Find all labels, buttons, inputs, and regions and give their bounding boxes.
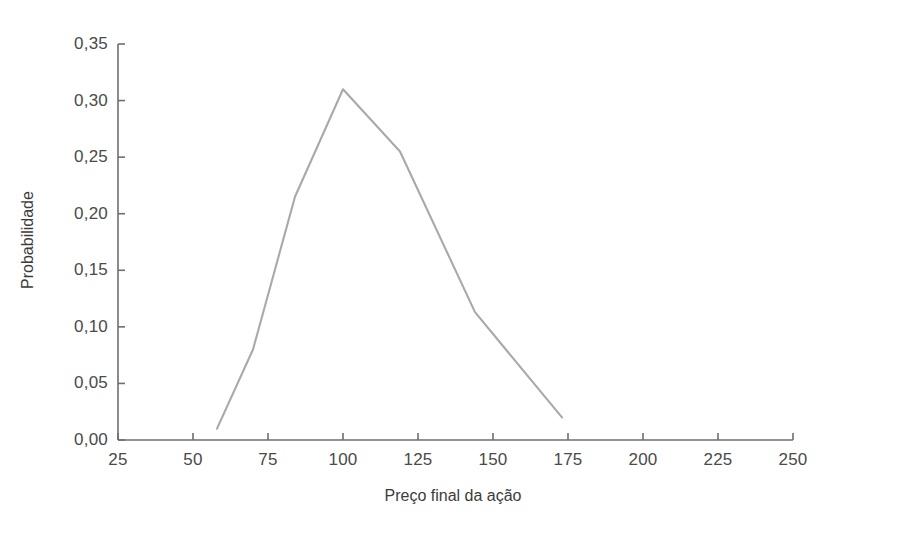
y-axis-tick-label: 0,25 bbox=[50, 147, 108, 167]
x-axis-tick-label: 150 bbox=[479, 450, 508, 470]
x-axis-tick-label: 75 bbox=[258, 450, 277, 470]
x-axis-tick-label: 50 bbox=[183, 450, 202, 470]
y-axis-tick-label: 0,35 bbox=[50, 34, 108, 54]
x-axis-tick-label: 125 bbox=[404, 450, 433, 470]
y-axis-tick-label: 0,00 bbox=[50, 430, 108, 450]
data-series-lines bbox=[217, 89, 562, 428]
y-axis-tick-label: 0,05 bbox=[50, 373, 108, 393]
y-axis-tick-label: 0,30 bbox=[50, 91, 108, 111]
y-axis-ticks bbox=[118, 44, 125, 440]
x-axis-tick-label: 25 bbox=[108, 450, 127, 470]
axis-lines bbox=[118, 44, 793, 440]
x-axis-tick-label: 200 bbox=[629, 450, 658, 470]
y-axis-tick-label: 0,20 bbox=[50, 204, 108, 224]
y-axis-tick-label: 0,10 bbox=[50, 317, 108, 337]
x-axis-tick-label: 175 bbox=[554, 450, 583, 470]
data-series-line bbox=[217, 89, 562, 428]
x-axis-tick-label: 250 bbox=[779, 450, 808, 470]
y-axis-tick-label: 0,15 bbox=[50, 260, 108, 280]
x-axis-tick-label: 225 bbox=[704, 450, 733, 470]
y-axis-title: Probabilidade bbox=[19, 191, 37, 289]
x-axis-tick-label: 100 bbox=[329, 450, 358, 470]
chart-container: 0,000,050,100,150,200,250,300,35 2550751… bbox=[0, 0, 906, 537]
chart-plot-area bbox=[0, 0, 906, 537]
x-axis-title: Preço final da ação bbox=[0, 487, 906, 505]
x-axis-ticks bbox=[118, 433, 793, 440]
